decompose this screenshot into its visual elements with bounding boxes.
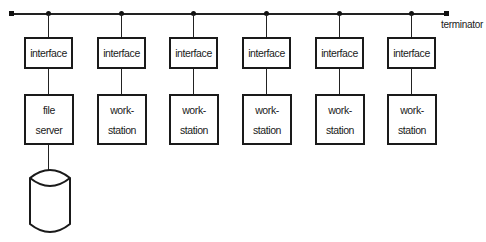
bus-to-interface-line-3 xyxy=(266,14,267,38)
workstation-box-1: work- station xyxy=(97,94,147,145)
interface-label: interface xyxy=(321,43,358,63)
workstation-box-5: work- station xyxy=(387,94,437,145)
terminator-left xyxy=(9,11,14,16)
host-label-line2: station xyxy=(253,120,281,140)
interface-to-host-line-5 xyxy=(411,69,412,95)
bus-to-interface-line-5 xyxy=(411,14,412,38)
interface-label: interface xyxy=(30,43,67,63)
interface-box-4: interface xyxy=(315,37,364,69)
interface-to-host-line-3 xyxy=(266,69,267,95)
host-label-line2: station xyxy=(326,120,354,140)
file-server-box-0: file server xyxy=(24,94,74,145)
server-to-disk-line xyxy=(48,145,49,170)
interface-to-host-line-4 xyxy=(339,69,340,95)
interface-to-host-line-0 xyxy=(48,69,49,95)
bus-to-interface-line-0 xyxy=(48,14,49,38)
host-label-line1: work- xyxy=(108,100,136,120)
terminator-right xyxy=(444,11,449,16)
host-label-line1: work- xyxy=(326,100,354,120)
host-label-line2: station xyxy=(108,120,136,140)
interface-label: interface xyxy=(103,43,140,63)
host-label-line2: station xyxy=(398,120,426,140)
host-label-line1: work- xyxy=(180,100,208,120)
bus-to-interface-line-1 xyxy=(121,14,122,38)
host-label-line1: file xyxy=(36,100,63,120)
interface-to-host-line-2 xyxy=(193,69,194,95)
interface-box-0: interface xyxy=(24,37,73,69)
terminator-label: terminator xyxy=(441,19,483,30)
interface-label: interface xyxy=(248,43,285,63)
interface-box-3: interface xyxy=(242,37,291,69)
interface-to-host-line-1 xyxy=(121,69,122,95)
host-label-line1: work- xyxy=(398,100,426,120)
interface-label: interface xyxy=(175,43,212,63)
interface-label: interface xyxy=(393,43,430,63)
bus-to-interface-line-4 xyxy=(339,14,340,38)
workstation-box-4: work- station xyxy=(315,94,365,145)
interface-box-1: interface xyxy=(97,37,146,69)
bus-to-interface-line-2 xyxy=(193,14,194,38)
host-label-line1: work- xyxy=(253,100,281,120)
interface-box-2: interface xyxy=(169,37,218,69)
workstation-box-3: work- station xyxy=(242,94,292,145)
network-bus xyxy=(11,13,447,15)
interface-box-5: interface xyxy=(387,37,436,69)
host-label-line2: station xyxy=(180,120,208,140)
host-label-line2: server xyxy=(36,120,63,140)
workstation-box-2: work- station xyxy=(169,94,219,145)
disk-storage-icon xyxy=(29,168,71,234)
